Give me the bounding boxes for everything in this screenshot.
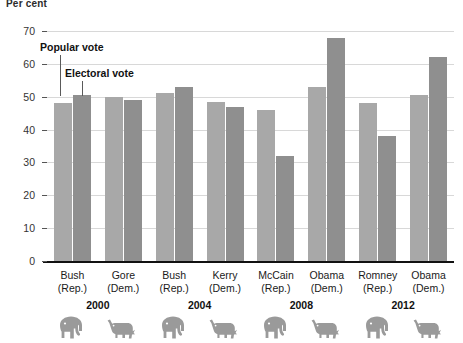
bar-kerry-3-popular[interactable] xyxy=(207,102,225,261)
x-axis-baseline xyxy=(43,261,454,263)
donkey-glyph xyxy=(412,313,446,341)
y-tick-mark-0 xyxy=(42,261,47,262)
elephant-icon xyxy=(257,313,295,341)
y-tick-mark-20 xyxy=(42,195,47,196)
bar-romney-6-popular[interactable] xyxy=(359,103,377,261)
y-tick-label-50: 50 xyxy=(11,91,35,103)
y-tick-label-10: 10 xyxy=(11,222,35,234)
bar-obama-5-popular[interactable] xyxy=(308,87,326,261)
y-tick-label-60: 60 xyxy=(11,58,35,70)
bar-bush-0-popular[interactable] xyxy=(54,103,72,261)
bar-bush-2-popular[interactable] xyxy=(156,93,174,261)
y-tick-mark-50 xyxy=(42,97,47,98)
elephant-glyph xyxy=(53,313,91,341)
y-tick-label-40: 40 xyxy=(11,124,35,136)
donkey-glyph xyxy=(106,313,140,341)
y-tick-mark-60 xyxy=(42,64,47,65)
donkey-icon xyxy=(310,313,344,341)
y-tick-label-20: 20 xyxy=(11,189,35,201)
elephant-icon xyxy=(53,313,91,341)
y-tick-mark-10 xyxy=(42,228,47,229)
elephant-glyph xyxy=(155,313,193,341)
bar-obama-5-electoral[interactable] xyxy=(327,38,345,261)
bar-gore-1-popular[interactable] xyxy=(105,97,123,261)
donkey-icon xyxy=(412,313,446,341)
bars-layer xyxy=(47,31,454,261)
candidate-party: (Dem.) xyxy=(399,282,459,295)
bar-obama-7-popular[interactable] xyxy=(410,95,428,261)
bar-kerry-3-electoral[interactable] xyxy=(226,107,244,261)
bar-obama-7-electoral[interactable] xyxy=(429,57,447,261)
elephant-icon xyxy=(359,313,397,341)
donkey-glyph xyxy=(310,313,344,341)
elephant-icon xyxy=(155,313,193,341)
year-label-2004: 2004 xyxy=(175,299,225,311)
elephant-glyph xyxy=(257,313,295,341)
candidate-name: Obama xyxy=(399,269,459,282)
donkey-glyph xyxy=(208,313,242,341)
y-tick-mark-40 xyxy=(42,130,47,131)
bar-bush-0-electoral[interactable] xyxy=(73,95,91,261)
y-tick-mark-70 xyxy=(42,31,47,32)
bar-gore-1-electoral[interactable] xyxy=(124,100,142,261)
bar-mccain-4-popular[interactable] xyxy=(257,110,275,261)
elephant-glyph xyxy=(359,313,397,341)
bar-mccain-4-electoral[interactable] xyxy=(276,156,294,261)
y-tick-label-30: 30 xyxy=(11,156,35,168)
y-tick-label-70: 70 xyxy=(11,25,35,37)
callout-electoral-vote: Electoral vote xyxy=(65,67,134,79)
candidate-label-obama-7: Obama(Dem.) xyxy=(399,269,459,295)
callout-electoral-leader-line xyxy=(82,81,83,96)
year-label-2008: 2008 xyxy=(276,299,326,311)
election-vote-bar-chart: Per cent 010203040506070 Popular vote El… xyxy=(0,0,463,343)
y-axis-title: Per cent xyxy=(6,0,47,9)
y-tick-mark-30 xyxy=(42,162,47,163)
bar-bush-2-electoral[interactable] xyxy=(175,87,193,261)
donkey-icon xyxy=(106,313,140,341)
y-tick-label-0: 0 xyxy=(11,255,35,267)
callout-popular-vote: Popular vote xyxy=(40,41,104,53)
plot-area xyxy=(47,31,454,261)
donkey-icon xyxy=(208,313,242,341)
bar-romney-6-electoral[interactable] xyxy=(378,136,396,261)
year-label-2000: 2000 xyxy=(73,299,123,311)
callout-popular-leader-line xyxy=(60,55,61,96)
year-label-2012: 2012 xyxy=(378,299,428,311)
